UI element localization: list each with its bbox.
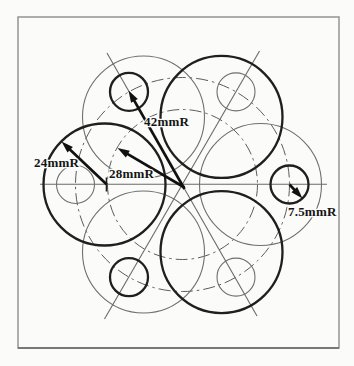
- dimension-arrowhead-28mmR: [118, 148, 130, 157]
- dimension-arrowhead-42mmR: [129, 91, 138, 103]
- drawing-page: 42mmR28mmR24mmR7.5mmR: [0, 0, 354, 366]
- dimension-label-24mmR: 24mmR: [34, 155, 79, 170]
- large-circle-300-bold: [161, 191, 283, 313]
- small-circle-300-thin: [217, 258, 255, 296]
- dimension-label-28mmR: 28mmR: [109, 166, 154, 181]
- dimension-label-42mmR: 42mmR: [144, 114, 189, 129]
- technical-drawing: 42mmR28mmR24mmR7.5mmR: [0, 0, 354, 366]
- dimension-label-7.5mmR: 7.5mmR: [288, 204, 337, 219]
